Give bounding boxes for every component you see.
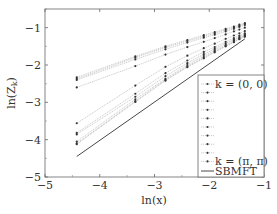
data-point [76,143,78,145]
data-point [225,33,227,35]
data-point [244,36,246,38]
data-point [203,57,205,59]
data-point [164,75,166,77]
data-point [233,34,235,36]
data-point [164,66,166,68]
x-tick-label: −4 [92,179,108,192]
legend-label-first: k = (0, 0) [215,78,267,91]
data-point [134,65,136,67]
series-line [77,24,245,79]
data-point [76,122,78,124]
data-point [203,37,205,39]
x-tick-label: −1 [256,179,272,192]
y-tick-label: −4 [25,134,41,147]
data-point [186,66,188,68]
data-point [164,48,166,50]
data-point [76,86,78,88]
data-point [164,53,166,55]
chart: −5−4−3−2−1−5−4−3−2−1 k = (0, 0) k = (π, … [0,0,277,214]
data-point [214,43,216,45]
legend-marker [206,143,208,145]
x-tick-label: −3 [146,179,162,192]
legend-label-sbmft: SBMFT [215,165,258,178]
data-point [244,24,246,26]
data-point [134,58,136,60]
y-axis-label-main: ln(Z [5,86,18,109]
y-tick-label: −3 [25,96,41,109]
data-point [186,59,188,61]
data-point [76,133,78,135]
y-tick-label: −2 [25,59,41,72]
data-point [225,38,227,40]
data-point [76,79,78,81]
data-point [233,41,235,43]
data-point [214,37,216,39]
data-point [214,34,216,36]
y-tick-label: −5 [25,171,41,184]
legend-marker [206,83,208,85]
data-point [203,51,205,53]
data-point [134,96,136,98]
data-point [244,27,246,29]
legend: k = (0, 0) k = (π, π) SBMFT [198,75,268,178]
legend-marker [206,100,208,102]
data-point [134,93,136,95]
series-line [77,23,245,77]
data-point [238,32,240,34]
data-point [238,26,240,28]
series-line [77,25,245,80]
data-point [134,101,136,103]
data-point [244,30,246,32]
data-point [214,51,216,53]
data-point [203,41,205,43]
data-point [186,42,188,44]
data-point [233,28,235,30]
data-point [186,46,188,48]
legend-marker [206,126,208,128]
legend-marker [206,160,208,162]
data-point [134,84,136,86]
data-point [238,28,240,30]
data-point [225,45,227,47]
y-tick-label: −1 [25,22,41,35]
data-point [164,72,166,74]
data-point [233,30,235,32]
data-point [186,55,188,57]
svg-text:ln(Zk): ln(Zk) [5,77,19,109]
y-axis-label: ln(Zk) [5,77,19,109]
data-point [164,80,166,82]
legend-marker [206,152,208,154]
x-tick-label: −2 [201,179,217,192]
legend-marker [206,109,208,111]
data-point [225,30,227,32]
legend-marker [206,92,208,94]
legend-marker [206,117,208,119]
data-point [238,38,240,40]
data-point [203,47,205,49]
legend-marker [206,135,208,137]
x-axis-label: ln(x) [141,194,166,207]
